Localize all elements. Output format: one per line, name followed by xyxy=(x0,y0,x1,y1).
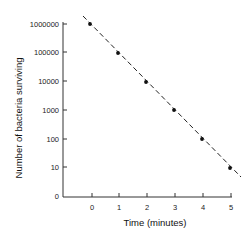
x-axis-label: Time (minutes) xyxy=(124,217,187,228)
x-tick-labels: 0 1 2 3 4 5 xyxy=(90,203,233,212)
fit-line xyxy=(83,16,241,177)
data-point xyxy=(200,137,204,141)
data-points xyxy=(88,22,232,170)
y-tick-label: 1000000 xyxy=(30,20,59,29)
x-tick-label: 1 xyxy=(117,203,121,212)
x-tick-label: 0 xyxy=(90,203,94,212)
y-tick-label: 10 xyxy=(51,163,59,172)
x-tick-label: 3 xyxy=(173,203,177,212)
y-tick-label: 1000 xyxy=(42,106,59,115)
x-tick-label: 5 xyxy=(229,203,233,212)
y-ticks xyxy=(63,24,67,167)
y-tick-label: 10000 xyxy=(38,77,59,86)
data-point xyxy=(88,22,92,26)
y-tick-label: 100 xyxy=(46,135,59,144)
y-tick-labels: 1000000 100000 10000 1000 100 10 0 xyxy=(30,20,59,201)
data-point xyxy=(144,80,148,84)
y-tick-label: 0 xyxy=(55,192,59,201)
data-point xyxy=(172,108,176,112)
data-point xyxy=(228,166,232,170)
y-tick-label: 100000 xyxy=(34,48,59,57)
data-point xyxy=(116,51,120,55)
x-ticks xyxy=(92,193,231,197)
x-tick-label: 4 xyxy=(201,203,205,212)
x-tick-label: 2 xyxy=(145,203,149,212)
chart: 1000000 100000 10000 1000 100 10 0 0 1 2… xyxy=(0,0,250,233)
y-axis-label: Number of bacteria surviving xyxy=(13,58,24,179)
